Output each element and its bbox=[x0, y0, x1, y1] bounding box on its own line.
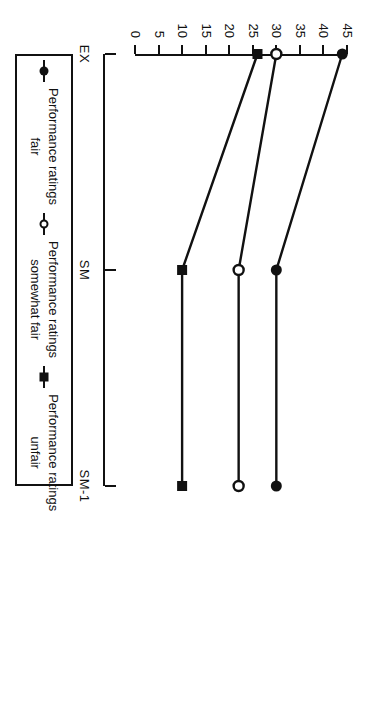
filled-circle-marker-icon bbox=[38, 60, 50, 82]
filled-square-marker-icon bbox=[252, 49, 262, 59]
filled-circle-marker-icon bbox=[337, 49, 348, 60]
chart-figure: Percent who are Satisfied or Very Satisf… bbox=[0, 0, 373, 702]
legend-label-unfair: Performance ratings unfair bbox=[26, 394, 61, 511]
filled-square-marker-icon bbox=[177, 265, 187, 275]
legend-entry-unfair[interactable]: Performance ratings unfair bbox=[26, 362, 61, 515]
series-line bbox=[182, 54, 257, 486]
legend-label-somewhat-fair-line-1: Performance ratings bbox=[46, 241, 61, 358]
filled-square-marker-icon bbox=[177, 481, 187, 491]
open-circle-marker-icon bbox=[234, 481, 244, 491]
legend-entry-somewhat-fair[interactable]: Performance ratings somewhat fair bbox=[26, 209, 61, 362]
legend-label-somewhat-fair-line-2: somewhat fair bbox=[28, 259, 43, 340]
open-circle-marker-icon bbox=[234, 265, 244, 275]
rotated-figure-stage: Percent who are Satisfied or Very Satisf… bbox=[0, 0, 373, 702]
filled-circle-marker-icon bbox=[271, 265, 282, 276]
legend-label-fair: Performance ratings fair bbox=[26, 88, 61, 205]
open-circle-marker-icon bbox=[271, 49, 281, 59]
legend-label-unfair-line-2: unfair bbox=[28, 436, 43, 469]
legend-label-fair-line-2: fair bbox=[28, 138, 43, 156]
open-circle-marker-icon bbox=[38, 213, 50, 235]
legend-label-somewhat-fair: Performance ratings somewhat fair bbox=[26, 241, 61, 358]
legend-label-fair-line-1: Performance ratings bbox=[46, 88, 61, 205]
legend-entry-fair[interactable]: Performance ratings fair bbox=[26, 56, 61, 209]
filled-square-marker-icon bbox=[38, 366, 50, 388]
series-line bbox=[276, 54, 342, 486]
legend-label-unfair-line-1: Performance ratings bbox=[46, 394, 61, 511]
filled-circle-marker-icon bbox=[271, 481, 282, 492]
legend: Performance ratings fair Performance rat… bbox=[15, 54, 73, 486]
